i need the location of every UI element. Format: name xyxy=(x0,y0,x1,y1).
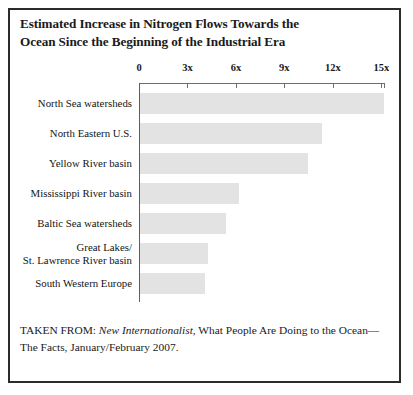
x-tick-label-0: 0 xyxy=(136,62,141,73)
category-label: Great Lakes/St. Lawrence River basin xyxy=(0,241,132,267)
bar xyxy=(140,123,322,144)
bar-row: South Western Europe xyxy=(10,273,399,294)
caption-source-title: New Internationalist xyxy=(99,324,193,336)
category-label-line: Mississippi River basin xyxy=(0,187,132,200)
bar xyxy=(140,153,308,174)
bar-chart: 03x6x9x12x15x North Sea watershedsNorth … xyxy=(10,62,399,310)
bar-row: Mississippi River basin xyxy=(10,183,399,204)
x-tick-mark xyxy=(187,83,188,88)
chart-title-line-1: Estimated Increase in Nitrogen Flows Tow… xyxy=(20,15,380,33)
bar-row: North Eastern U.S. xyxy=(10,123,399,144)
category-label: South Western Europe xyxy=(0,277,132,290)
bar xyxy=(140,213,226,234)
figure-panel: Estimated Increase in Nitrogen Flows Tow… xyxy=(8,8,401,383)
x-tick-mark xyxy=(284,83,285,88)
caption-prefix: TAKEN FROM: xyxy=(20,324,99,336)
source-caption: TAKEN FROM: New Internationalist, What P… xyxy=(20,322,382,355)
category-label-line: Baltic Sea watersheds xyxy=(0,217,132,230)
x-tick-mark xyxy=(381,83,382,88)
x-tick-mark xyxy=(333,83,334,88)
x-axis-tick-labels: 03x6x9x12x15x xyxy=(10,62,399,80)
x-tick-label-9x: 9x xyxy=(279,62,290,73)
x-tick-mark xyxy=(236,83,237,88)
category-label: Yellow River basin xyxy=(0,157,132,170)
x-axis-end-cap xyxy=(384,83,385,88)
bar-row: Baltic Sea watersheds xyxy=(10,213,399,234)
x-axis-line xyxy=(139,83,384,84)
bar-row: North Sea watersheds xyxy=(10,93,399,114)
bar xyxy=(140,243,208,264)
category-label: North Eastern U.S. xyxy=(0,127,132,140)
bar xyxy=(140,273,205,294)
category-label-line: North Sea watersheds xyxy=(0,97,132,110)
bar xyxy=(140,93,384,114)
category-label: Mississippi River basin xyxy=(0,187,132,200)
x-tick-label-15x: 15x xyxy=(373,62,389,73)
chart-title: Estimated Increase in Nitrogen Flows Tow… xyxy=(20,15,380,51)
bar-row: Great Lakes/St. Lawrence River basin xyxy=(10,243,399,264)
x-tick-label-6x: 6x xyxy=(231,62,242,73)
x-tick-label-3x: 3x xyxy=(182,62,193,73)
category-label: Baltic Sea watersheds xyxy=(0,217,132,230)
chart-title-line-2: Ocean Since the Beginning of the Industr… xyxy=(20,33,380,51)
x-tick-label-12x: 12x xyxy=(325,62,341,73)
category-label-line: St. Lawrence River basin xyxy=(0,254,132,267)
category-label-line: Great Lakes/ xyxy=(0,241,132,254)
category-label-line: North Eastern U.S. xyxy=(0,127,132,140)
category-label-line: South Western Europe xyxy=(0,277,132,290)
category-label: North Sea watersheds xyxy=(0,97,132,110)
category-label-line: Yellow River basin xyxy=(0,157,132,170)
bar-row: Yellow River basin xyxy=(10,153,399,174)
bar xyxy=(140,183,239,204)
